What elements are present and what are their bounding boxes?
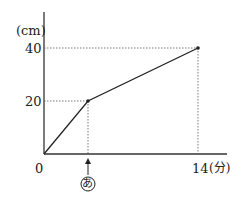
- y-unit-label: (cm): [16, 24, 46, 37]
- y-tick-40: 40: [25, 42, 42, 55]
- x-unit-label: (分): [209, 162, 230, 174]
- marker-label: あ: [82, 178, 93, 189]
- data-point: [196, 46, 200, 50]
- x-tick-14: 14: [192, 162, 209, 175]
- data-point: [86, 99, 90, 103]
- origin-label: 0: [35, 162, 43, 175]
- arrow-head-icon: [85, 158, 91, 164]
- data-line: [44, 48, 198, 154]
- y-tick-20: 20: [25, 95, 42, 108]
